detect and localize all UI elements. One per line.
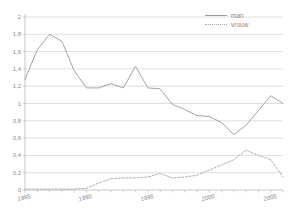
y-axis-label: 0,6: [0, 135, 21, 141]
y-axis-label: 0,8: [0, 118, 21, 124]
legend-label-man: man: [231, 12, 244, 19]
legend-item-vrouw[interactable]: vrouw: [205, 20, 283, 29]
chart-plot-area: [0, 0, 288, 213]
legend-swatch-vrouw-icon: [205, 24, 227, 26]
series-line-man: [25, 34, 283, 134]
y-axis-label: 2: [0, 14, 21, 20]
y-axis-label: 0,4: [0, 152, 21, 158]
chart-legend: man vrouw: [205, 11, 283, 29]
y-axis-label: 1,6: [0, 49, 21, 55]
y-axis-label: 1,8: [0, 31, 21, 37]
y-axis-label: 1,2: [0, 83, 21, 89]
line-chart: 00,20,40,60,811,21,41,61,82 198519901995…: [0, 0, 288, 213]
y-axis-label: 1: [0, 101, 21, 107]
y-axis-label: 0,2: [0, 170, 21, 176]
gridlines: [25, 17, 283, 173]
legend-label-vrouw: vrouw: [231, 21, 248, 28]
y-axis-label: 1,4: [0, 66, 21, 72]
legend-item-man[interactable]: man: [205, 11, 283, 20]
series-line-vrouw: [25, 150, 283, 189]
legend-swatch-man-icon: [205, 15, 227, 17]
y-axis-label: 0: [0, 187, 21, 193]
axis-lines: [23, 14, 283, 190]
x-axis-tick-marks: [25, 190, 283, 193]
data-series-layer: [25, 34, 283, 189]
